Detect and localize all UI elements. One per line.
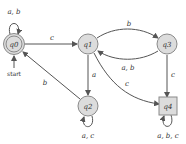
edge-q4-q4 [163, 115, 172, 126]
edge-label-q3-q1: a, b [121, 64, 135, 72]
edge-q1-q3 [97, 29, 158, 38]
state-label: q2 [84, 103, 93, 111]
state-q0: q0 [4, 34, 25, 55]
state-q3: q3 [157, 34, 177, 54]
edge-q2-q0 [23, 52, 80, 99]
state-q2: q2 [78, 96, 98, 116]
edge-label-q1-q3: b [127, 20, 132, 28]
edge-label-q4-q4: a, b, c [157, 132, 179, 140]
edge-label-q3-q4: c [171, 71, 175, 79]
state-label: q3 [163, 41, 172, 49]
edge-label-q2-q0: b [43, 79, 48, 87]
edge-label-q0-q1: c [50, 34, 54, 42]
state-label: q0 [10, 41, 19, 49]
automaton-diagram: q0 q1 q2 q3 q4 a, b c b a, b a b c c a [0, 0, 186, 144]
edge-q3-q1 [98, 51, 158, 59]
edge-q1-q4 [94, 53, 159, 104]
diagram-svg: q0 q1 q2 q3 q4 a, b c b a, b a b c c a [0, 0, 186, 144]
edge-q0-q0 [9, 24, 18, 35]
start-label: start [7, 70, 22, 77]
edge-label-q1-q2: a [92, 71, 96, 79]
edge-q2-q2 [83, 116, 92, 127]
state-q4: q4 [159, 97, 177, 115]
state-q1: q1 [78, 34, 98, 54]
state-label: q1 [84, 41, 93, 49]
state-label: q4 [164, 103, 173, 111]
edge-label-q0-q0: a, b [7, 8, 21, 16]
edge-label-q2-q2: a, c [82, 132, 95, 140]
edge-label-q1-q4: c [125, 80, 129, 88]
